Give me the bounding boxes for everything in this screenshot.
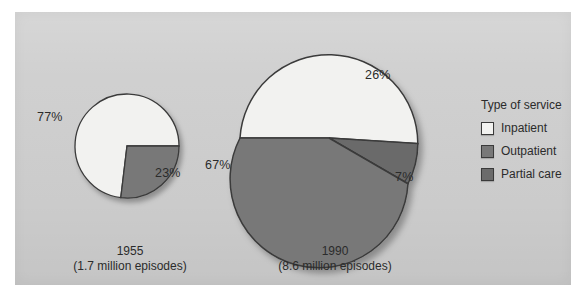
legend-item-outpatient[interactable]: Outpatient xyxy=(481,144,585,158)
pie-1990 xyxy=(227,36,431,240)
pie-1990-label-7: 7% xyxy=(395,170,413,184)
legend-title: Type of service xyxy=(481,98,585,112)
legend-label-outpatient: Outpatient xyxy=(501,144,556,158)
pie-1955-year: 1955 xyxy=(50,244,210,259)
legend-label-partial-care: Partial care xyxy=(501,167,562,181)
legend: Type of service Inpatient Outpatient Par… xyxy=(481,98,585,190)
chart-panel: 77% 23% 1955 (1.7 million episodes) 26% xyxy=(15,12,571,285)
pie-1990-label-26: 26% xyxy=(365,68,391,82)
pie-chart-figure: 77% 23% 1955 (1.7 million episodes) 26% xyxy=(0,0,588,300)
pie-1955-caption: 1955 (1.7 million episodes) xyxy=(50,244,210,274)
legend-label-inpatient: Inpatient xyxy=(501,121,547,135)
pie-1990-label-67: 67% xyxy=(205,158,231,172)
legend-swatch-partial-care-icon xyxy=(481,168,494,181)
pie-1955-label-77: 77% xyxy=(37,110,63,124)
pie-1990-caption: 1990 (8.6 million episodes) xyxy=(250,244,420,274)
legend-swatch-inpatient-icon xyxy=(481,122,494,135)
pie-1990-slice-inpatient xyxy=(240,55,418,144)
pie-1990-subtitle: (8.6 million episodes) xyxy=(250,259,420,274)
pie-1955-label-23: 23% xyxy=(155,166,181,180)
pie-1990-year: 1990 xyxy=(250,244,420,259)
pie-1955 xyxy=(63,82,191,210)
legend-item-inpatient[interactable]: Inpatient xyxy=(481,121,585,135)
pie-1955-subtitle: (1.7 million episodes) xyxy=(50,259,210,274)
legend-swatch-outpatient-icon xyxy=(481,145,494,158)
legend-item-partial-care[interactable]: Partial care xyxy=(481,167,585,181)
